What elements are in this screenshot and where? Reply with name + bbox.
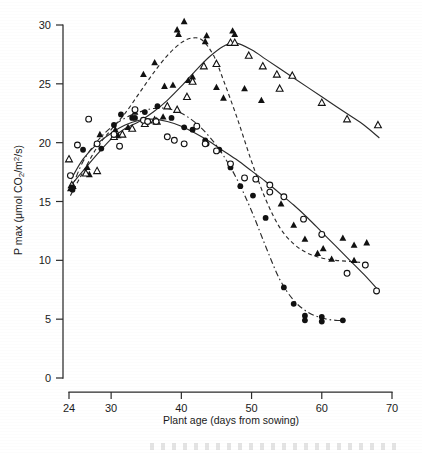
marker-circle-open: [153, 119, 159, 125]
marker-triangle-filled: [278, 200, 285, 206]
marker-triangle-open: [174, 106, 181, 112]
marker-triangle-open: [213, 60, 220, 66]
marker-circle-filled: [263, 215, 269, 221]
marker-circle-open: [319, 232, 325, 238]
marker-circle-open: [75, 142, 81, 148]
marker-triangle-filled: [174, 26, 181, 32]
y-tick-label: 20: [39, 137, 51, 149]
fit-curve-group: [70, 38, 379, 321]
marker-circle-filled: [319, 319, 325, 325]
marker-circle-open: [267, 182, 273, 188]
marker-circle-filled: [340, 317, 346, 323]
y-tick-label: 30: [39, 19, 51, 31]
marker-circle-open: [362, 262, 368, 268]
marker-circle-open: [202, 141, 208, 147]
marker-circle-open: [267, 189, 273, 195]
marker-circle-open: [145, 119, 151, 125]
marker-circle-open: [181, 141, 187, 147]
marker-circle-open: [164, 134, 170, 140]
marker-triangle-open: [66, 156, 73, 162]
figure-panel: 051015202530 243040506070 Plant age (day…: [0, 0, 422, 453]
marker-triangle-filled: [181, 18, 188, 24]
marker-triangle-filled: [290, 221, 297, 227]
marker-triangle-open: [276, 85, 283, 91]
series-open-circle: [68, 107, 380, 294]
marker-circle-open: [111, 132, 117, 138]
y-axis-tick-labels: 051015202530: [39, 19, 51, 384]
marker-circle-open: [171, 137, 177, 143]
marker-triangle-open: [375, 121, 382, 127]
marker-triangle-filled: [258, 97, 265, 103]
marker-triangle-filled: [302, 236, 309, 242]
marker-circle-open: [214, 148, 220, 154]
marker-triangle-filled: [161, 83, 168, 89]
marker-triangle-open: [318, 99, 325, 105]
marker-circle-filled: [281, 285, 287, 291]
marker-triangle-filled: [151, 59, 158, 65]
marker-circle-filled: [80, 147, 86, 153]
marker-circle-filled: [155, 103, 161, 109]
marker-circle-filled: [111, 122, 117, 128]
y-tick-label: 5: [45, 313, 51, 325]
marker-circle-open: [344, 270, 350, 276]
marker-circle-open: [86, 116, 92, 122]
marker-circle-filled: [169, 115, 175, 121]
marker-triangle-open: [94, 167, 101, 173]
marker-circle-open: [194, 123, 200, 129]
x-tick-label: 30: [105, 402, 117, 414]
marker-triangle-filled: [351, 241, 358, 247]
y-axis-title: P max (μmol CO2/m2/s): [12, 145, 26, 255]
marker-circle-open: [253, 176, 259, 182]
x-axis: 243040506070: [63, 392, 398, 414]
x-tick-label: 60: [316, 402, 328, 414]
marker-circle-open: [228, 161, 234, 167]
marker-triangle-filled: [160, 113, 167, 119]
marker-circle-filled: [132, 115, 138, 121]
marker-circle-open: [94, 141, 100, 147]
series-open-triangle: [66, 39, 382, 188]
marker-circle-filled: [237, 183, 243, 189]
x-tick-label: 50: [245, 402, 257, 414]
y-axis: 051015202530: [39, 19, 63, 384]
marker-triangle-filled: [314, 250, 321, 256]
marker-triangle-open: [344, 116, 351, 122]
open-triangle-fit: [71, 43, 379, 185]
marker-triangle-filled: [203, 32, 210, 38]
marker-triangle-filled: [140, 71, 147, 77]
marker-triangle-filled: [220, 94, 227, 100]
data-marker-group: [66, 18, 382, 325]
marker-triangle-filled: [241, 85, 248, 91]
marker-triangle-filled: [351, 257, 358, 263]
marker-triangle-filled: [213, 84, 220, 90]
marker-circle-open: [374, 288, 380, 294]
y-tick-label: 0: [45, 372, 51, 384]
marker-triangle-filled: [170, 81, 177, 87]
marker-circle-open: [301, 216, 307, 222]
marker-circle-filled: [70, 187, 76, 193]
marker-circle-filled: [291, 301, 297, 307]
marker-triangle-open: [245, 52, 252, 58]
marker-circle-open: [117, 143, 123, 149]
x-tick-label: 70: [386, 402, 398, 414]
marker-circle-filled: [250, 193, 256, 199]
page-bleed-smudge: [150, 443, 400, 450]
y-tick-label: 15: [39, 196, 51, 208]
marker-triangle-filled: [320, 245, 327, 251]
series-filled-triangle: [66, 18, 371, 263]
x-tick-label: 24: [63, 402, 75, 414]
y-tick-label: 10: [39, 254, 51, 266]
marker-circle-filled: [118, 112, 124, 118]
marker-triangle-filled: [328, 256, 335, 262]
marker-circle-open: [132, 107, 138, 113]
marker-triangle-open: [200, 63, 207, 69]
marker-circle-open: [242, 175, 248, 181]
y-tick-label: 25: [39, 78, 51, 90]
marker-circle-filled: [302, 317, 308, 323]
marker-circle-open: [68, 173, 74, 179]
marker-triangle-open: [164, 103, 171, 109]
marker-triangle-open: [184, 93, 191, 99]
x-axis-ticks: [69, 392, 392, 399]
marker-circle-filled: [98, 146, 104, 152]
marker-triangle-filled: [96, 131, 103, 137]
marker-triangle-open: [259, 63, 266, 69]
